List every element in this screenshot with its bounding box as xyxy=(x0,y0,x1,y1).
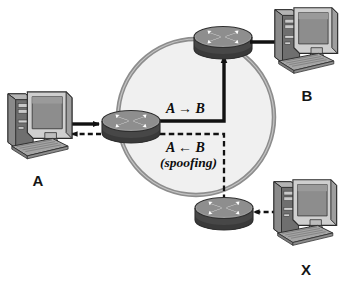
host-b[interactable] xyxy=(275,8,338,74)
router-x[interactable] xyxy=(195,198,253,231)
host-b-label: B xyxy=(302,87,313,104)
spoofed-flow-sublabel: (spoofing) xyxy=(160,155,217,170)
diagram-canvas: A → B A ← B (spoofing) xyxy=(0,0,351,293)
host-a-label: A xyxy=(33,172,44,189)
router-b[interactable] xyxy=(194,27,252,60)
legit-flow-label: A → B xyxy=(165,101,205,116)
network-diagram: A → B A ← B (spoofing) xyxy=(0,0,351,293)
host-a[interactable] xyxy=(8,92,72,159)
spoofed-flow-label: A ← B xyxy=(165,140,205,155)
host-x[interactable] xyxy=(274,180,337,246)
host-x-label: X xyxy=(301,261,311,278)
router-a[interactable] xyxy=(102,111,160,144)
